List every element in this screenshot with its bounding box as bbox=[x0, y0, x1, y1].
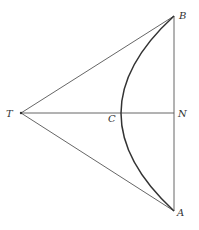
label-a: A bbox=[176, 207, 184, 218]
label-c: C bbox=[108, 113, 116, 124]
geometry-diagram: B T N C A bbox=[0, 0, 199, 230]
label-n: N bbox=[177, 108, 188, 119]
segment-tb bbox=[21, 16, 174, 113]
segments bbox=[21, 16, 174, 211]
segment-ta bbox=[21, 113, 174, 211]
point-t bbox=[20, 112, 22, 114]
label-b: B bbox=[178, 10, 186, 21]
label-t: T bbox=[6, 108, 14, 119]
